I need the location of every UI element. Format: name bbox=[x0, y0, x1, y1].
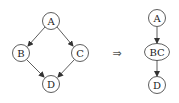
graph-merge-diagram: A B C D ⇒ A BC D bbox=[0, 0, 179, 103]
edge-a-b bbox=[28, 27, 45, 46]
left-graph-edges bbox=[27, 27, 74, 77]
node-label: A bbox=[152, 13, 161, 24]
node-label: B bbox=[17, 48, 24, 59]
edge-a-c bbox=[57, 27, 73, 46]
edge-b-d bbox=[27, 60, 44, 77]
node-label: D bbox=[153, 80, 161, 91]
left-graph-node-a: A bbox=[43, 13, 60, 30]
node-label: A bbox=[46, 16, 55, 27]
edge-c-d bbox=[58, 60, 74, 77]
left-graph-node-c: C bbox=[72, 45, 89, 62]
left-graph-node-b: B bbox=[13, 45, 30, 62]
right-graph-node-d: D bbox=[149, 77, 166, 94]
node-label: BC bbox=[149, 47, 165, 58]
right-graph-node-a: A bbox=[149, 10, 166, 27]
right-graph-node-bc: BC bbox=[145, 44, 170, 61]
node-label: C bbox=[76, 48, 84, 59]
implies-arrow-icon: ⇒ bbox=[112, 47, 121, 60]
node-label: D bbox=[47, 79, 55, 90]
left-graph-node-d: D bbox=[43, 76, 60, 93]
